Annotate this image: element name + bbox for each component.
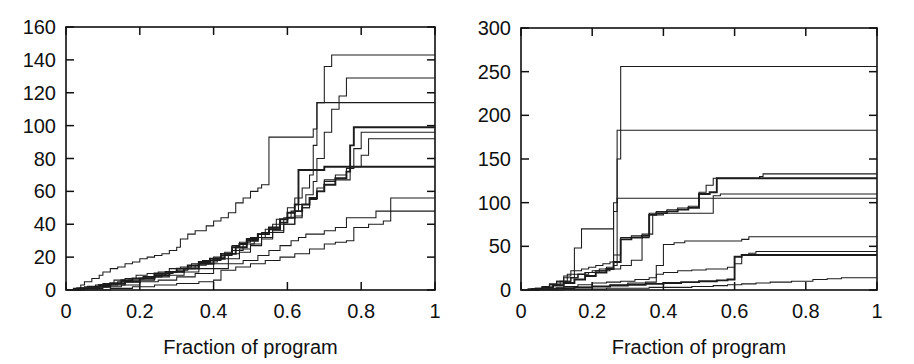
x-tick-label: 1	[871, 300, 882, 322]
x-tick-label: 0.6	[721, 300, 749, 322]
y-tick-label: 100	[23, 115, 56, 137]
x-tick-label: 0.4	[649, 300, 677, 322]
right-chart-svg: 05010015020025030000.20.40.60.81Fraction…	[457, 0, 914, 364]
x-tick-label: 0	[515, 300, 526, 322]
chart-panel-right: 05010015020025030000.20.40.60.81Fraction…	[457, 0, 914, 364]
x-tick-label: 0.8	[792, 300, 820, 322]
chart-panel-left: 02040608010012014016000.20.40.60.81Fract…	[0, 0, 457, 364]
x-tick-label: 0.2	[126, 300, 154, 322]
x-tick-label: 0.8	[347, 300, 375, 322]
step-curve	[66, 55, 435, 290]
x-axis-title: Fraction of program	[163, 336, 338, 358]
y-tick-label: 20	[34, 246, 56, 268]
y-tick-label: 50	[489, 235, 511, 257]
y-tick-label: 150	[478, 148, 511, 170]
step-curve	[66, 78, 435, 290]
y-tick-label: 0	[500, 279, 511, 301]
left-chart-svg: 02040608010012014016000.20.40.60.81Fract…	[0, 0, 457, 364]
x-tick-label: 0.2	[578, 300, 606, 322]
figure-two-panel-step-plots: 02040608010012014016000.20.40.60.81Fract…	[0, 0, 914, 364]
x-tick-label: 0.6	[273, 300, 301, 322]
y-tick-label: 120	[23, 82, 56, 104]
x-tick-label: 0.4	[200, 300, 228, 322]
y-tick-label: 250	[478, 61, 511, 83]
x-axis-title: Fraction of program	[612, 336, 787, 358]
step-curve	[66, 167, 435, 290]
y-tick-label: 100	[478, 192, 511, 214]
y-tick-label: 200	[478, 104, 511, 126]
y-tick-label: 0	[45, 279, 56, 301]
y-tick-label: 80	[34, 148, 56, 170]
y-tick-label: 160	[23, 16, 56, 38]
x-tick-label: 0	[60, 300, 71, 322]
y-tick-label: 60	[34, 180, 56, 202]
y-tick-label: 40	[34, 213, 56, 235]
y-tick-label: 300	[478, 17, 511, 39]
y-tick-label: 140	[23, 49, 56, 71]
x-tick-label: 1	[429, 300, 440, 322]
